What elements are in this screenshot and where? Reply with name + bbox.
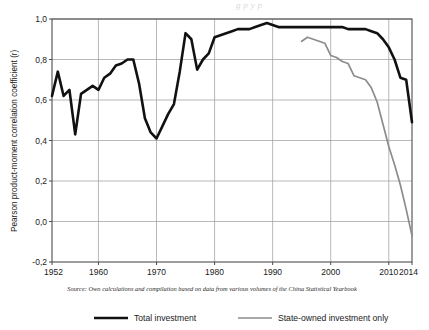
x-tick-label: 1980 <box>205 267 224 277</box>
series-line <box>52 23 412 138</box>
correlation-line-chart: 1,00,80,60,40,20,0-0,2 19521960197019801… <box>0 0 429 330</box>
y-tick-label: 1,0 <box>35 14 47 24</box>
chart-figure: g p y p 1,00,80,60,40,20,0-0,2 195219601… <box>0 0 429 330</box>
x-tick-label: 2014 <box>399 267 418 277</box>
x-tick-label: 2000 <box>321 267 340 277</box>
x-axis-tick-labels: 19521960197019801990200020102014 <box>44 267 418 277</box>
y-tick-label: -0,2 <box>32 257 47 267</box>
y-tick-label: 0,4 <box>35 136 47 146</box>
y-tick-label: 0,0 <box>35 217 47 227</box>
x-tick-label: 1990 <box>263 267 282 277</box>
x-tick-label: 1960 <box>89 267 108 277</box>
page-bleed-text: g p y p <box>236 0 426 12</box>
y-tick-label: 0,2 <box>35 176 47 186</box>
legend-label: State-owned investment only <box>278 313 389 323</box>
x-tick-label: 1970 <box>147 267 166 277</box>
y-tick-label: 0,8 <box>35 55 47 65</box>
x-tick-label: 2010 <box>379 267 398 277</box>
chart-legend: Total investmentState-owned investment o… <box>94 313 389 323</box>
legend-label: Total investment <box>134 313 197 323</box>
data-series-lines <box>52 23 412 236</box>
gridlines <box>52 19 412 262</box>
x-tick-label: 1952 <box>44 267 63 277</box>
y-tick-label: 0,6 <box>35 95 47 105</box>
y-axis-tick-labels: 1,00,80,60,40,20,0-0,2 <box>32 14 47 267</box>
series-line <box>302 37 412 235</box>
source-note: Source: Own calculations and compilation… <box>67 285 357 292</box>
y-axis-title: Pearson product-moment correlation coeff… <box>10 49 19 232</box>
